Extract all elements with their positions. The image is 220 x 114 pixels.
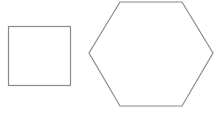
hexagon-shape <box>89 2 213 106</box>
square-shape <box>9 27 71 86</box>
diagram-canvas <box>0 0 220 114</box>
